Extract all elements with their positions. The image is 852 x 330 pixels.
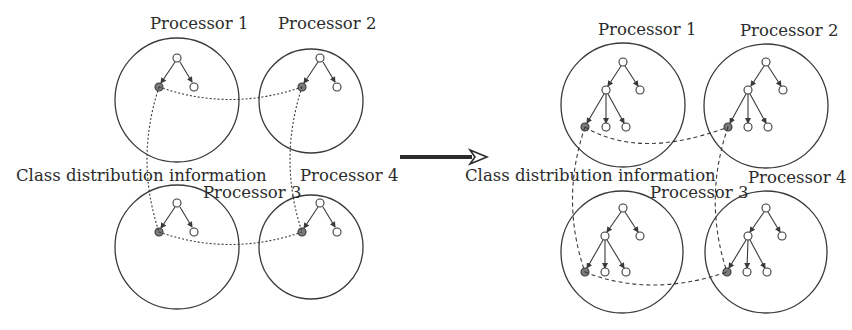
- tree-node: [602, 86, 610, 94]
- tree-node: [762, 58, 770, 66]
- tree-node: [779, 86, 787, 94]
- tree-node: [316, 54, 324, 62]
- tree-node: [744, 232, 752, 240]
- tree-node: [619, 204, 627, 212]
- tree-node: [636, 232, 644, 240]
- processor-4-circle: [259, 195, 363, 299]
- processor-3-label: Processor 3: [650, 183, 748, 202]
- tree-node: [190, 83, 198, 91]
- tree-node: [173, 54, 181, 62]
- processor-1-label: Processor 1: [598, 20, 696, 39]
- tree-node: [316, 199, 324, 207]
- processor-2-label: Processor 2: [740, 21, 838, 40]
- tree-node: [622, 268, 630, 276]
- tree-node: [190, 228, 198, 236]
- tree-node: [601, 232, 609, 240]
- processor-4-label: Processor 4: [300, 166, 398, 185]
- tree-node: [778, 232, 786, 240]
- tree-node: [173, 199, 181, 207]
- tree-node: [744, 86, 752, 94]
- processor-1-tree: [155, 54, 198, 91]
- processor-1-label: Processor 1: [150, 14, 248, 33]
- processor-3-tree: [155, 199, 198, 236]
- tree-node: [764, 123, 772, 131]
- tree-node: [622, 123, 630, 131]
- right-distribution-links: [573, 127, 729, 285]
- processor-3-tree: [581, 204, 644, 276]
- tree-node: [636, 86, 644, 94]
- processor-4-tree: [723, 204, 786, 276]
- tree-node: [744, 123, 752, 131]
- tree-node: [333, 83, 341, 91]
- processor-1-tree: [581, 58, 644, 131]
- right-panel: Processor 1 Processor 2 Class distributi…: [465, 20, 846, 313]
- tree-node: [762, 204, 770, 212]
- transition-arrow-icon: [400, 150, 487, 164]
- processor-4-label: Processor 4: [748, 168, 846, 187]
- tree-node: [333, 228, 341, 236]
- processor-2-tree: [298, 54, 341, 91]
- tree-node: [763, 268, 771, 276]
- parallel-tree-diagram: Processor 1 Processor 2 Class distributi…: [0, 0, 852, 330]
- tree-node: [619, 58, 627, 66]
- tree-node: [601, 268, 609, 276]
- processor-2-label: Processor 2: [278, 14, 376, 33]
- left-panel: Processor 1 Processor 2 Class distributi…: [16, 14, 398, 309]
- tree-node: [743, 268, 751, 276]
- tree-node: [602, 123, 610, 131]
- processor-2-circle: [259, 49, 363, 153]
- processor-2-tree: [724, 58, 787, 131]
- processor-3-label: Processor 3: [203, 183, 301, 202]
- processor-4-tree: [298, 199, 341, 236]
